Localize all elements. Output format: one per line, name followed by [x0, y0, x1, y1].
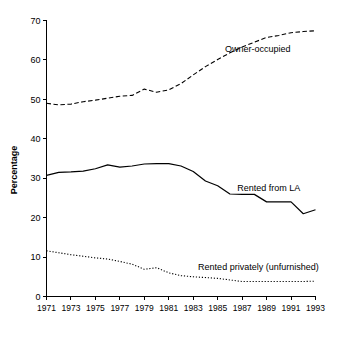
y-axis-title: Percentage — [9, 146, 19, 195]
series-label-0: Owner-occupied — [225, 44, 291, 54]
x-tick-label: 1993 — [306, 303, 325, 313]
y-tick-label: 70 — [30, 16, 40, 26]
x-tick-label: 1983 — [184, 303, 203, 313]
x-tick-label: 1985 — [208, 303, 227, 313]
y-axis: 010203040506070 — [30, 16, 46, 302]
y-tick-label: 50 — [30, 95, 40, 105]
x-axis: 1971197319751977197919811983198519871989… — [37, 297, 325, 313]
line-chart: 010203040506070 197119731975197719791981… — [0, 0, 342, 341]
y-tick-label: 20 — [30, 213, 40, 223]
x-tick-label: 1989 — [257, 303, 276, 313]
y-tick-label: 10 — [30, 252, 40, 262]
y-tick-label: 40 — [30, 134, 40, 144]
x-tick-label: 1991 — [282, 303, 301, 313]
x-tick-label: 1975 — [86, 303, 105, 313]
series-label-1: Rented from LA — [237, 183, 300, 193]
x-tick-label: 1987 — [233, 303, 252, 313]
x-tick-label: 1971 — [37, 303, 56, 313]
y-tick-label: 30 — [30, 173, 40, 183]
series-annotations: Owner-occupiedRented from LARented priva… — [198, 44, 319, 272]
chart-container: 010203040506070 197119731975197719791981… — [0, 0, 342, 341]
series-label-2: Rented privately (unfurnished) — [198, 262, 319, 272]
series-line-0 — [47, 31, 316, 105]
x-tick-label: 1981 — [159, 303, 178, 313]
x-tick-label: 1973 — [61, 303, 80, 313]
x-tick-label: 1979 — [135, 303, 154, 313]
series-lines — [47, 31, 316, 282]
x-tick-label: 1977 — [110, 303, 129, 313]
y-tick-label: 0 — [35, 292, 40, 302]
y-tick-label: 60 — [30, 55, 40, 65]
